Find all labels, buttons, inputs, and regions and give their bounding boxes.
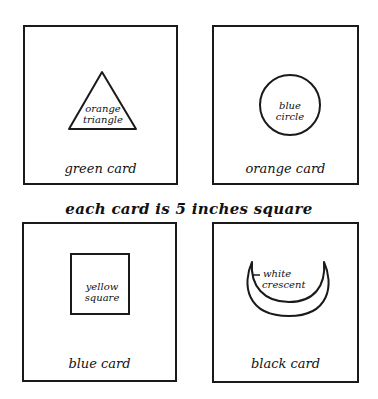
green-card: orange triangle green card xyxy=(23,25,178,185)
circle-label: blue circle xyxy=(264,100,316,122)
card-label: black card xyxy=(214,356,357,371)
triangle-label: orange triangle xyxy=(77,103,129,125)
card-label: blue card xyxy=(24,356,175,371)
crescent-label: white crescent xyxy=(258,268,320,290)
card-label: green card xyxy=(25,161,176,176)
square-label: yellow square xyxy=(74,281,130,303)
caption: each card is 5 inches square xyxy=(0,200,378,218)
orange-card: blue circle orange card xyxy=(212,25,359,185)
blue-card: yellow square blue card xyxy=(22,222,177,382)
black-card: white crescent black card xyxy=(212,222,359,383)
card-label: orange card xyxy=(214,161,357,176)
